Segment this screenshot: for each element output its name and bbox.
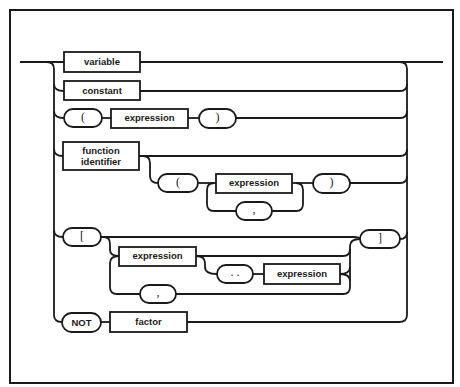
node-label: ] (378, 231, 382, 245)
terminal-comma-2: , (140, 285, 176, 303)
node-function-identifier: function identifier (63, 142, 139, 170)
node-label-line2: identifier (81, 156, 121, 167)
node-label: , (157, 285, 160, 299)
node-label: , (253, 202, 256, 216)
node-variable: variable (64, 52, 140, 72)
terminal-rparen-2: ) (313, 174, 350, 193)
node-label: ) (330, 175, 334, 189)
node-expression-1: expression (111, 109, 188, 128)
node-label: expression (124, 112, 174, 123)
terminal-dotdot: . . (217, 265, 253, 283)
terminal-lbracket: [ (63, 228, 101, 246)
terminal-lparen-1: ( (64, 109, 102, 127)
node-expression-2: expression (216, 174, 292, 193)
node-label-line1: function (82, 145, 120, 156)
node-constant: constant (64, 81, 140, 100)
node-label: ( (81, 110, 85, 124)
terminal-rbracket: ] (360, 230, 400, 248)
terminal-comma-1: , (236, 202, 272, 220)
node-factor: factor (110, 312, 187, 332)
node-label: constant (82, 85, 122, 96)
node-label: factor (135, 316, 162, 327)
node-label: expression (277, 268, 327, 279)
syntax-diagram: variable constant ( expression ) functio… (0, 0, 460, 387)
node-label: NOT (71, 317, 91, 328)
terminal-rparen-1: ) (199, 109, 236, 128)
node-label: variable (84, 56, 120, 67)
node-label: ( (176, 175, 180, 189)
terminal-not: NOT (62, 313, 101, 332)
node-label: expression (132, 250, 182, 261)
node-label: expression (229, 177, 279, 188)
node-label: . . (231, 265, 240, 279)
node-expression-4: expression (264, 264, 340, 284)
node-label: ) (216, 110, 220, 124)
node-expression-3: expression (119, 247, 196, 266)
terminal-lparen-2: ( (158, 174, 198, 192)
node-label: [ (80, 229, 84, 243)
